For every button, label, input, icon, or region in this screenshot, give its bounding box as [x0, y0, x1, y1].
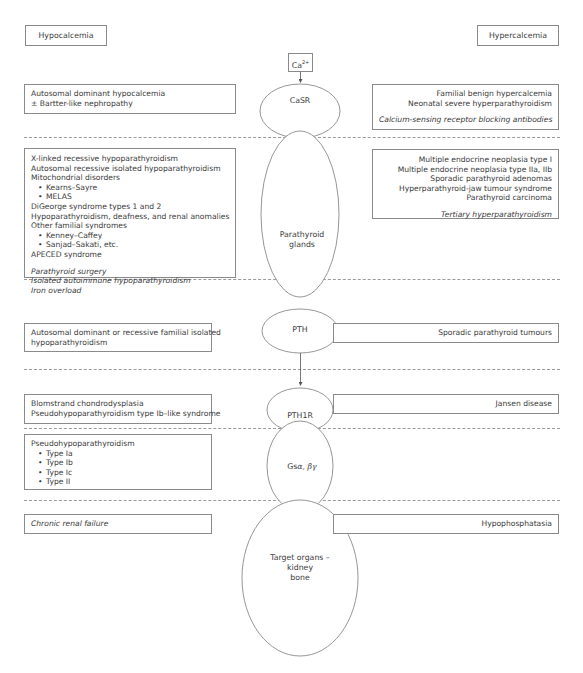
acquired-disorder-item: Calcium-sensing receptor blocking antibo…	[379, 115, 552, 125]
pth1r-label: PTH1R	[287, 411, 313, 421]
disorder-item: Blomstrand chondrodysplasia	[31, 399, 205, 409]
acquired-disorder-item: Tertiary hyperparathyroidism	[379, 210, 552, 220]
disorder-item: Pseudohypoparathyroidism type Ib–like sy…	[31, 409, 205, 419]
disorder-item: Jansen disease	[340, 399, 552, 409]
disorder-subitem: Kenney–Caffey	[31, 231, 229, 241]
parathyroid-ellipse	[261, 131, 339, 297]
disorder-item: Neonatal severe hyperparathyroidism	[379, 99, 552, 109]
disorder-item: Sporadic parathyroid tumours	[340, 328, 552, 338]
casr-label: CaSR	[290, 96, 311, 106]
target-hypercalcemia-box: Hypophosphatasia	[333, 514, 559, 534]
parathyroid-hypercalcemia-box: Multiple endocrine neoplasia type I Mult…	[372, 149, 559, 219]
disorder-item: APECED syndrome	[31, 250, 229, 260]
pth-hypercalcemia-box: Sporadic parathyroid tumours	[333, 323, 559, 343]
calcium-charge: 2+	[302, 59, 309, 65]
disorder-subitem: Type Ia	[31, 449, 205, 459]
disorder-item: Hypophosphatasia	[340, 519, 552, 529]
disorder-item: Pseudohypoparathyroidism	[31, 439, 205, 449]
calcium-ion-label: Ca2+	[292, 57, 310, 71]
disorder-subitem: Type II	[31, 477, 205, 487]
disorder-item: Multiple endocrine neoplasia type I	[379, 155, 552, 165]
parathyroid-label-line2: glands	[280, 240, 325, 250]
disorder-item: Autosomal dominant hypocalcemia	[31, 89, 229, 99]
parathyroid-hypocalcemia-box: X-linked recessive hypoparathyroidism Au…	[24, 148, 236, 278]
gs-alpha-beta-gamma-label: Gsα, βγ	[287, 462, 317, 472]
acquired-disorder-item: Isolated autoimmune hypoparathyroidism	[31, 276, 229, 286]
pth-label: PTH	[292, 325, 307, 335]
casr-ellipse	[260, 84, 340, 138]
parathyroid-label-line1: Parathyroid	[280, 230, 325, 240]
disorder-item: Parathyroid carcinoma	[379, 193, 552, 203]
acquired-disorder-item: Parathyroid surgery	[31, 267, 229, 277]
parathyroid-glands-label: Parathyroid glands	[280, 230, 325, 250]
casr-hypocalcemia-box: Autosomal dominant hypocalcemia ± Bartte…	[24, 84, 236, 114]
disorder-item: Familial benign hypercalcemia	[379, 89, 552, 99]
disorder-subitem: Sanjad–Sakati, etc.	[31, 240, 229, 250]
disorder-item: Autosomal dominant or recessive familial…	[31, 328, 205, 338]
disorder-item: DiGeorge syndrome types 1 and 2	[31, 202, 229, 212]
casr-hypercalcemia-box: Familial benign hypercalcemia Neonatal s…	[372, 84, 559, 130]
disorder-item: Sporadic parathyroid adenomas	[379, 174, 552, 184]
disorder-subitem: Type Ib	[31, 458, 205, 468]
disorder-subitem: Kearns–Sayre	[31, 183, 229, 193]
pth1r-hypercalcemia-box: Jansen disease	[333, 394, 559, 414]
target-label-line1: Target organs –	[270, 553, 330, 563]
disorder-subitem: Type Ic	[31, 468, 205, 478]
disorder-item: Multiple endocrine neoplasia type IIa, I…	[379, 165, 552, 175]
target-organs-label: Target organs – kidney bone	[270, 553, 330, 583]
calcium-symbol: Ca	[292, 61, 302, 70]
target-label-line3: bone	[270, 573, 330, 583]
disorder-item: X-linked recessive hypoparathyroidism	[31, 154, 229, 164]
disorder-subitem: MELAS	[31, 192, 229, 202]
pth-hypocalcemia-box: Autosomal dominant or recessive familial…	[24, 323, 212, 352]
pth1r-hypocalcemia-box: Blomstrand chondrodysplasia Pseudohypopa…	[24, 394, 212, 424]
acquired-disorder-item: Chronic renal failure	[31, 519, 205, 529]
disorder-item: ± Bartter-like nephropathy	[31, 99, 229, 109]
disorder-item: Other familial syndromes	[31, 221, 229, 231]
target-hypocalcemia-box: Chronic renal failure	[24, 514, 212, 534]
disorder-item: Hyperparathyroid-jaw tumour syndrome	[379, 184, 552, 194]
gs-text: Gs	[287, 462, 297, 471]
disorder-item: hypoparathyroidism	[31, 338, 205, 348]
disorder-item: Autosomal recessive isolated hypoparathy…	[31, 164, 229, 174]
gs-hypocalcemia-box: Pseudohypoparathyroidism Type Ia Type Ib…	[24, 434, 212, 490]
target-label-line2: kidney	[270, 563, 330, 573]
disorder-item: Mitochondrial disorders	[31, 173, 229, 183]
acquired-disorder-item: Iron overload	[31, 286, 229, 296]
greek-subunits-text: α, βγ	[297, 462, 316, 471]
disorder-item: Hypoparathyroidism, deafness, and renal …	[31, 212, 229, 222]
